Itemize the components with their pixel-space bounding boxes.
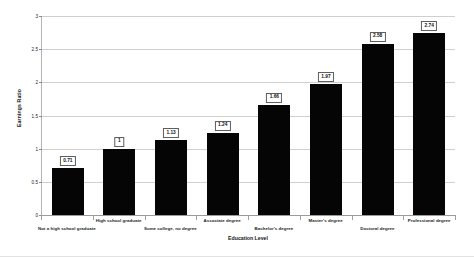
- earnings-ratio-bar-chart: Earnings Ratio 00.511.522.53 0.7111.131.…: [0, 0, 474, 257]
- bar-value-label: 0.71: [60, 156, 76, 166]
- y-tick-label: 2.5: [24, 47, 38, 52]
- bar[interactable]: 1: [103, 149, 135, 215]
- bar[interactable]: 1.97: [310, 84, 342, 215]
- bar-slot: 1.66: [249, 16, 301, 215]
- bar-value-label: 2.58: [370, 32, 386, 42]
- y-tick-label: 0.5: [24, 179, 38, 184]
- bar[interactable]: 2.58: [362, 44, 394, 215]
- y-tick-label: 0: [24, 213, 38, 218]
- y-axis-tick-labels: 00.511.522.53: [24, 16, 38, 215]
- y-axis-title-text: Earnings Ratio: [16, 88, 22, 126]
- y-tick-label: 1.5: [24, 113, 38, 118]
- x-tick-mark: [455, 215, 456, 220]
- x-category-label: Master's degree: [309, 218, 343, 223]
- y-tick-label: 3: [24, 14, 38, 19]
- x-category-label: Associate degree: [204, 218, 241, 223]
- bar-slot: 1: [94, 16, 146, 215]
- bar[interactable]: 2.74: [413, 33, 445, 215]
- x-category-label: Bachelor's degree: [255, 226, 294, 231]
- bar-value-label: 1.66: [266, 93, 282, 103]
- x-axis-title: Education Level: [41, 235, 455, 241]
- bars-container: 0.7111.131.241.661.972.582.74: [42, 16, 455, 215]
- bar-value-label: 1.24: [215, 121, 231, 131]
- x-category-label: Professional degree: [408, 218, 451, 223]
- bar-slot: 0.71: [42, 16, 94, 215]
- bar-value-label: 1.13: [163, 128, 179, 138]
- bar-value-label: 2.74: [421, 21, 437, 31]
- y-tick-label: 1: [24, 146, 38, 151]
- bar[interactable]: 1.13: [155, 140, 187, 215]
- bar-slot: 1.13: [145, 16, 197, 215]
- bar[interactable]: 1.24: [207, 133, 239, 215]
- x-category-label: High school graduate: [96, 218, 142, 223]
- y-tick-label: 2: [24, 80, 38, 85]
- bar-slot: 2.74: [403, 16, 455, 215]
- plot-area: 0.7111.131.241.661.972.582.74: [41, 16, 455, 215]
- x-category-label: Doctoral degree: [360, 226, 394, 231]
- bar-slot: 2.58: [352, 16, 404, 215]
- bar[interactable]: 0.71: [52, 168, 84, 215]
- bar-value-label: 1: [115, 137, 124, 147]
- bar[interactable]: 1.66: [258, 105, 290, 215]
- bar-slot: 1.97: [300, 16, 352, 215]
- x-category-label: Some college, no degree: [144, 226, 197, 231]
- x-category-label: Not a high school graduate: [38, 226, 96, 231]
- bar-value-label: 1.97: [318, 72, 334, 82]
- bar-slot: 1.24: [197, 16, 249, 215]
